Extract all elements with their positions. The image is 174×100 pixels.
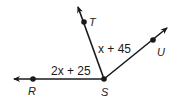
label-R: R <box>28 85 36 97</box>
label-S: S <box>101 86 109 98</box>
label-T: T <box>89 16 97 28</box>
point-U <box>150 37 156 43</box>
angle-diagram: T U R S x + 45 2x + 25 <box>0 0 174 100</box>
angle-TSU-label: x + 45 <box>98 42 131 56</box>
label-U: U <box>157 46 165 58</box>
point-S <box>101 76 107 82</box>
point-R <box>30 76 36 82</box>
angle-RST-label: 2x + 25 <box>51 64 91 78</box>
point-T <box>81 19 87 25</box>
